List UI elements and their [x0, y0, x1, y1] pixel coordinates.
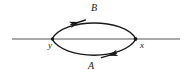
vertex-label-x: x [140, 41, 144, 50]
vertex-x-dot [134, 37, 138, 41]
arc-label-a: A [88, 61, 94, 71]
bigon-diagram: y x B A [0, 0, 193, 75]
vertex-label-y: y [48, 41, 52, 50]
arc-b-path [52, 23, 136, 39]
arc-label-b: B [91, 3, 97, 13]
arc-a-path [52, 39, 136, 55]
